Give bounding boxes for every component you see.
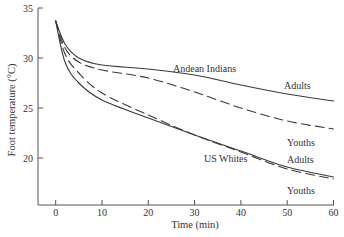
y-tick-label: 20 xyxy=(23,153,33,164)
x-axis-title: Time (min) xyxy=(171,219,219,231)
y-tick-label: 25 xyxy=(23,103,33,114)
x-tick-label: 30 xyxy=(190,207,200,218)
annotation-andean-youths: Youths xyxy=(287,137,315,148)
x-ticks: 0102030405060 xyxy=(53,200,338,218)
y-tick-label: 35 xyxy=(23,3,33,14)
annotation-andean-adults: Adults xyxy=(284,80,311,91)
x-tick-label: 0 xyxy=(53,207,58,218)
x-tick-label: 40 xyxy=(236,207,246,218)
x-tick-label: 50 xyxy=(282,207,292,218)
y-axis-title: Foot temperature (°C) xyxy=(6,63,18,156)
x-tick-label: 60 xyxy=(329,207,339,218)
y-ticks: 20253035 xyxy=(23,3,43,164)
axes xyxy=(38,8,334,205)
annotation-andean-indians: Andean Indians xyxy=(173,63,236,74)
y-tick-label: 30 xyxy=(23,53,33,64)
foot-temperature-chart: 0102030405060 20253035 Time (min) Foot t… xyxy=(0,0,344,237)
annotation-us-whites: US Whites xyxy=(204,153,248,164)
annotation-us-youths: Youths xyxy=(287,185,315,196)
x-tick-label: 10 xyxy=(97,207,107,218)
annotation-us-adults: Adults xyxy=(287,154,314,165)
x-tick-label: 20 xyxy=(143,207,153,218)
